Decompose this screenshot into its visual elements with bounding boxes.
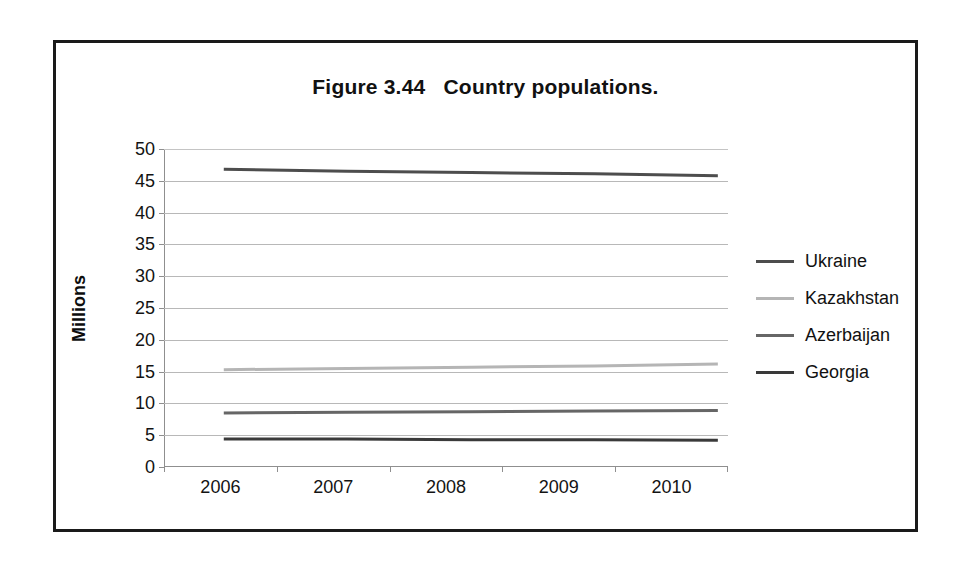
x-axis-tick-label: 2006 [200, 477, 240, 498]
legend-swatch-icon [756, 297, 794, 300]
legend-item-label: Georgia [805, 362, 869, 383]
x-axis-tick [615, 467, 616, 472]
series-line-georgia [224, 439, 718, 440]
chart-legend: UkraineKazakhstanAzerbaijanGeorgia [756, 243, 916, 391]
x-axis-tick-label: 2009 [539, 477, 579, 498]
figure-frame: Figure 3.44 Country populations. Million… [53, 40, 918, 532]
legend-item-label: Ukraine [805, 251, 867, 272]
x-axis-tick-label: 2010 [652, 477, 692, 498]
y-axis-tick-label: 15 [135, 361, 155, 382]
legend-item-label: Kazakhstan [805, 288, 899, 309]
legend-item-georgia[interactable]: Georgia [756, 354, 916, 391]
series-line-ukraine [224, 169, 718, 175]
y-axis-tick-label: 25 [135, 298, 155, 319]
legend-swatch-icon [756, 334, 794, 337]
x-axis-tick [502, 467, 503, 472]
plot-area: 05101520253035404550 2006200720082009201… [164, 149, 728, 467]
x-axis-tick [390, 467, 391, 472]
x-axis-tick-label: 2008 [426, 477, 466, 498]
x-axis-tick [277, 467, 278, 472]
legend-swatch-icon [756, 371, 794, 374]
figure-page: Figure 3.44 Country populations. Million… [0, 0, 965, 561]
y-axis-tick-label: 5 [145, 425, 155, 446]
legend-item-ukraine[interactable]: Ukraine [756, 243, 916, 280]
y-axis-tick-label: 10 [135, 393, 155, 414]
y-axis-tick-label: 30 [135, 266, 155, 287]
x-axis-tick [727, 467, 728, 472]
y-axis-tick-label: 0 [145, 457, 155, 478]
y-axis-title: Millions [68, 149, 90, 467]
legend-item-label: Azerbaijan [805, 325, 890, 346]
y-axis-tick-label: 40 [135, 202, 155, 223]
legend-item-kazakhstan[interactable]: Kazakhstan [756, 280, 916, 317]
y-axis-title-label: Millions [69, 275, 90, 342]
y-axis-tick-label: 45 [135, 170, 155, 191]
x-axis-tick-label: 2007 [313, 477, 353, 498]
legend-swatch-icon [756, 260, 794, 263]
x-axis-tick [164, 467, 165, 472]
series-layer [164, 149, 728, 467]
series-line-kazakhstan [224, 364, 718, 370]
line-chart: Millions 05101520253035404550 2006200720… [56, 43, 915, 529]
y-axis-tick-label: 50 [135, 139, 155, 160]
series-line-azerbaijan [224, 410, 718, 413]
legend-item-azerbaijan[interactable]: Azerbaijan [756, 317, 916, 354]
y-axis-tick-label: 35 [135, 234, 155, 255]
y-axis-tick-label: 20 [135, 329, 155, 350]
